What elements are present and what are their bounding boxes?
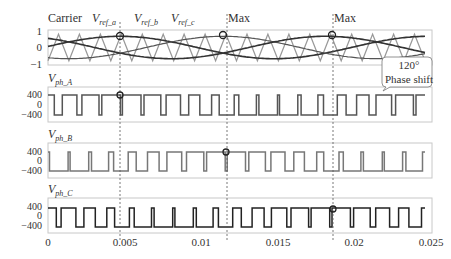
svg-text:0: 0: [37, 41, 43, 53]
vref-a-label: Vref_a: [92, 11, 116, 27]
yticks-phc: 400 0 −400: [21, 201, 42, 231]
callout-line2: Phase shift: [385, 73, 433, 85]
svg-text:0.02: 0.02: [344, 236, 363, 248]
svg-text:−400: −400: [21, 109, 42, 120]
pwm-chart: Carrier Vref_a Vref_b Vref_c Max Max 1 0…: [0, 0, 451, 259]
svg-text:0.015: 0.015: [266, 236, 291, 248]
phb-label: Vph_B: [48, 127, 72, 143]
phase-a-wave: [48, 95, 425, 115]
panel-phb-frame: [48, 143, 432, 178]
panel-pha-frame: [48, 87, 432, 122]
svg-text:−400: −400: [21, 165, 42, 176]
phase-b-wave: [48, 152, 425, 171]
carrier-label: Carrier: [48, 11, 82, 25]
pha-label: Vph_A: [48, 71, 72, 87]
max-label-1: Max: [228, 11, 250, 25]
yticks-phb: 400 0 −400: [21, 146, 42, 176]
svg-text:0.005: 0.005: [113, 236, 138, 248]
svg-text:−400: −400: [21, 220, 42, 231]
reference-waves: [48, 36, 425, 58]
yticks-pha: 400 0 −400: [21, 89, 42, 120]
svg-text:0.01: 0.01: [191, 236, 210, 248]
callout-line1: 120°: [399, 59, 420, 71]
max-label-2: Max: [334, 11, 356, 25]
svg-text:0.025: 0.025: [419, 236, 444, 248]
svg-text:−1: −1: [30, 58, 42, 70]
yticks-modulation: 1 0 −1: [30, 25, 42, 70]
vref-c-label: Vref_c: [171, 11, 195, 27]
phase-c-wave: [48, 208, 425, 227]
carrier-wave: [48, 34, 425, 61]
vref-b-label: Vref_b: [134, 11, 158, 27]
svg-text:0: 0: [45, 236, 51, 248]
xticks: 0 0.005 0.01 0.015 0.02 0.025: [45, 236, 444, 248]
svg-text:1: 1: [37, 25, 43, 37]
phc-label: Vph_C: [48, 182, 73, 198]
